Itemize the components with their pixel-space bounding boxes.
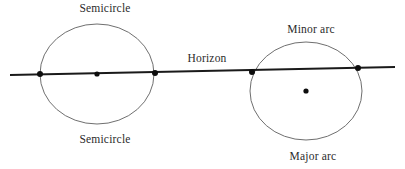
label-right-circle-major-arc: Major arc [290,150,337,163]
label-left-circle-upper-semicircle: Semicircle [79,2,130,14]
geometry-figure: Semicircle Semicircle Horizon Minor arc … [0,0,405,169]
horizon-line [10,67,395,75]
label-left-circle-lower-semicircle: Semicircle [79,133,130,145]
left-circle-intersection-dot-west [37,71,43,77]
left-circle-intersection-dot-east [152,70,158,76]
right-circle-intersection-dot-east [355,65,361,71]
label-horizon: Horizon [187,52,226,64]
right-circle-intersection-dot-west [249,69,255,75]
left-circle-center-dot [94,71,99,76]
label-right-circle-minor-arc: Minor arc [287,23,334,35]
diagram-canvas: Semicircle Semicircle Horizon Minor arc … [0,0,405,169]
right-circle-center-dot [303,88,308,93]
